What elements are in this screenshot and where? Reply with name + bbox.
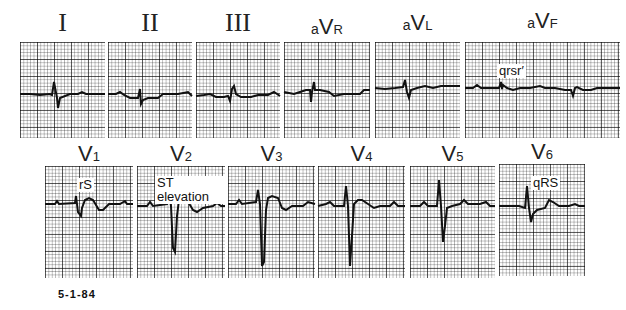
lead-label-V4: V4 — [318, 143, 405, 168]
ecg-strip-aVR — [284, 42, 370, 138]
lead-label-V5: V5 — [410, 143, 495, 168]
ecg-strip-V1: rS — [45, 166, 133, 278]
lead-label-aVL: aVL — [375, 12, 460, 37]
lead-label-aVF: aVF — [465, 10, 620, 35]
ecg-trace-I — [20, 42, 105, 138]
ecg-strip-III — [196, 42, 280, 138]
ecg-trace-aVF — [465, 42, 620, 138]
ecg-strip-I — [20, 42, 105, 138]
lead-label-V1: V1 — [45, 143, 133, 168]
ecg-trace-V4 — [318, 166, 405, 278]
lead-label-III: III — [196, 12, 280, 34]
lead-label-II: II — [108, 12, 192, 34]
ecg-strip-V5 — [410, 166, 495, 278]
ecg-strip-aVF: qrsr′ — [465, 42, 620, 138]
lead-label-V2: V2 — [137, 143, 225, 168]
ecg-strip-V6: qRS — [499, 164, 585, 276]
lead-label-V6: V6 — [499, 141, 585, 166]
ecg-trace-III — [196, 42, 280, 138]
ecg-trace-V5 — [410, 166, 495, 278]
ecg-strip-V2: ST elevation — [137, 166, 225, 278]
annotation-rS: rS — [77, 178, 94, 192]
ecg-trace-V3 — [228, 166, 315, 278]
lead-label-aVR: aVR — [284, 16, 370, 41]
lead-label-I: I — [20, 12, 105, 34]
ecg-strip-aVL — [375, 42, 460, 138]
ecg-strip-V3 — [228, 166, 315, 278]
ecg-strip-V4 — [318, 166, 405, 278]
annotation-qRS: qRS — [531, 176, 560, 190]
annotation-st-elevation: ST elevation — [155, 176, 225, 204]
ecg-strip-II — [108, 42, 192, 138]
date-label: 5-1-84 — [58, 288, 96, 300]
lead-label-V3: V3 — [228, 143, 315, 168]
ecg-trace-aVR — [284, 42, 370, 138]
ecg-trace-II — [108, 42, 192, 138]
ecg-trace-aVL — [375, 42, 460, 138]
annotation-qrsr: qrsr′ — [497, 64, 526, 78]
